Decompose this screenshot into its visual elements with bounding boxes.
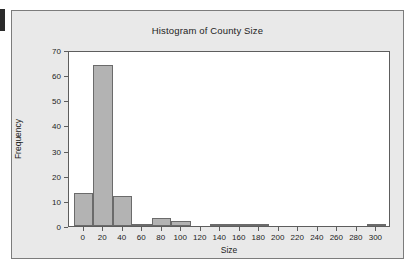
y-tick-label: 70	[41, 47, 61, 56]
x-tick-mark	[297, 227, 298, 231]
y-tick-label: 50	[41, 97, 61, 106]
x-tick-mark	[141, 227, 142, 231]
x-tick-mark	[122, 227, 123, 231]
x-tick-mark	[200, 227, 201, 231]
x-tick-label: 160	[232, 233, 245, 242]
histogram-figure: Histogram of County Size Frequency 01020…	[11, 10, 404, 259]
histogram-bar	[230, 224, 250, 227]
histogram-bar	[74, 193, 94, 226]
x-tick-label: 80	[156, 233, 165, 242]
x-tick-label: 120	[193, 233, 206, 242]
x-axis-title: Size	[68, 245, 390, 255]
y-tick-label: 40	[41, 122, 61, 131]
x-tick-mark	[356, 227, 357, 231]
x-tick-mark	[278, 227, 279, 231]
y-tick-label: 60	[41, 72, 61, 81]
y-axis-title: Frequency	[13, 119, 23, 159]
y-tick-label: 0	[41, 223, 61, 232]
histogram-bar	[93, 65, 113, 226]
x-tick-label: 280	[349, 233, 362, 242]
x-tick-label: 100	[174, 233, 187, 242]
x-tick-mark	[180, 227, 181, 231]
histogram-bar	[132, 224, 152, 227]
x-tick-label: 240	[310, 233, 323, 242]
histogram-bar	[113, 196, 133, 226]
y-tick-label: 10	[41, 197, 61, 206]
plot-area	[68, 51, 390, 227]
histogram-bar	[152, 218, 172, 226]
x-tick-mark	[336, 227, 337, 231]
x-tick-label: 0	[80, 233, 84, 242]
x-tick-label: 40	[117, 233, 126, 242]
left-edge-artifact	[0, 9, 5, 31]
chart-title: Histogram of County Size	[12, 25, 403, 36]
histogram-bar	[171, 221, 191, 226]
histogram-bar	[367, 224, 387, 227]
y-tick-label: 30	[41, 147, 61, 156]
x-tick-mark	[239, 227, 240, 231]
x-tick-label: 300	[369, 233, 382, 242]
x-tick-label: 20	[98, 233, 107, 242]
x-tick-label: 220	[291, 233, 304, 242]
x-tick-mark	[219, 227, 220, 231]
x-tick-label: 260	[330, 233, 343, 242]
x-tick-mark	[102, 227, 103, 231]
x-tick-label: 180	[252, 233, 265, 242]
y-tick-mark	[64, 227, 68, 228]
histogram-bar	[210, 224, 230, 227]
x-tick-label: 60	[137, 233, 146, 242]
x-tick-mark	[258, 227, 259, 231]
x-tick-mark	[83, 227, 84, 231]
y-tick-label: 20	[41, 172, 61, 181]
x-tick-mark	[375, 227, 376, 231]
x-tick-mark	[161, 227, 162, 231]
x-tick-label: 200	[271, 233, 284, 242]
x-tick-label: 140	[213, 233, 226, 242]
x-tick-mark	[317, 227, 318, 231]
histogram-bar	[250, 224, 270, 227]
histogram-bars	[69, 52, 389, 226]
